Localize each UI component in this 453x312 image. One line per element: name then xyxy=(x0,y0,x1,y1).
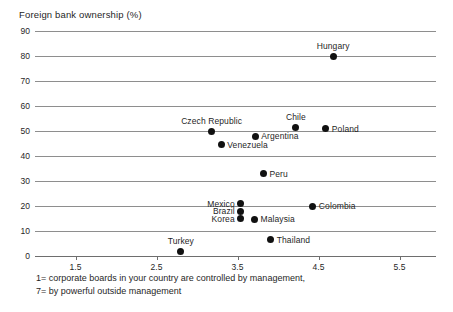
x-tick-label: 3.5 xyxy=(232,262,244,272)
gridline xyxy=(35,206,436,207)
gridline xyxy=(35,31,436,32)
data-point-label: Malaysia xyxy=(261,214,295,224)
data-point xyxy=(260,170,267,177)
y-tick-label: 90 xyxy=(21,26,30,36)
gridline xyxy=(35,231,436,232)
data-point-label: Chile xyxy=(286,112,306,122)
data-point-label: Peru xyxy=(269,169,287,179)
data-point-label: Poland xyxy=(332,124,359,134)
x-tick-label: 4.5 xyxy=(313,262,325,272)
plot-area: 01020304050607080901.52.53.54.55.5Hungar… xyxy=(35,31,436,256)
chart-title: Foreign bank ownership (%) xyxy=(19,9,142,20)
y-tick-label: 60 xyxy=(21,101,30,111)
caption-line-1: 1= corporate boards in your country are … xyxy=(36,272,305,285)
x-tick-label: 5.5 xyxy=(394,262,406,272)
gridline xyxy=(35,181,436,182)
data-point xyxy=(177,248,184,255)
data-point xyxy=(208,128,215,135)
gridline xyxy=(35,131,436,132)
gridline xyxy=(35,156,436,157)
data-point xyxy=(237,208,244,215)
x-tick-label: 2.5 xyxy=(151,262,163,272)
data-point xyxy=(218,141,225,148)
chart-figure: Foreign bank ownership (%) 0102030405060… xyxy=(0,0,453,312)
y-tick-label: 50 xyxy=(21,126,30,136)
y-tick-label: 80 xyxy=(21,51,30,61)
data-point-label: Hungary xyxy=(317,41,350,51)
y-tick-label: 10 xyxy=(21,226,30,236)
y-tick-label: 70 xyxy=(21,76,30,86)
x-tick-mark xyxy=(76,256,77,260)
data-point xyxy=(237,215,244,222)
data-point-label: Venezuela xyxy=(227,140,268,150)
data-point xyxy=(251,216,258,223)
y-tick-label: 20 xyxy=(21,201,30,211)
y-tick-label: 0 xyxy=(25,251,30,261)
data-point-label: Korea xyxy=(212,214,235,224)
gridline xyxy=(35,106,436,107)
data-point xyxy=(267,236,274,243)
data-point xyxy=(292,124,299,131)
data-point xyxy=(309,203,316,210)
data-point-label: Turkey xyxy=(168,236,194,246)
data-point xyxy=(252,133,259,140)
x-tick-mark xyxy=(319,256,320,260)
x-tick-mark xyxy=(238,256,239,260)
y-tick-label: 30 xyxy=(21,176,30,186)
x-tick-mark xyxy=(400,256,401,260)
data-point-label: Czech Republic xyxy=(181,116,242,126)
data-point xyxy=(330,53,337,60)
caption-line-2: 7= by powerful outside management xyxy=(36,285,305,298)
x-axis-line xyxy=(35,256,436,257)
x-tick-label: 1.5 xyxy=(70,262,82,272)
gridline xyxy=(35,56,436,57)
x-tick-mark xyxy=(157,256,158,260)
data-point-label: Colombia xyxy=(319,201,356,211)
y-tick-label: 40 xyxy=(21,151,30,161)
chart-caption: 1= corporate boards in your country are … xyxy=(36,272,305,297)
data-point-label: Thailand xyxy=(277,235,310,245)
gridline xyxy=(35,81,436,82)
